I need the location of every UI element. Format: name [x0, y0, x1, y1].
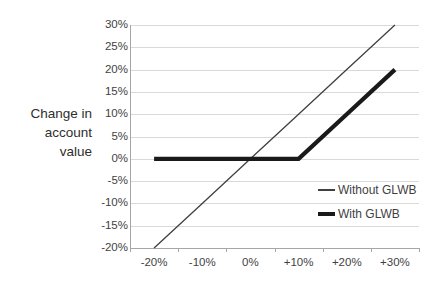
legend-item-without-glwb: Without GLWB	[318, 178, 442, 202]
x-axis-tick	[323, 248, 324, 252]
y-axis-tick-label: 15%	[86, 86, 128, 98]
x-axis-tick	[226, 248, 227, 252]
gridline	[130, 92, 419, 93]
y-axis-tick-label: -15%	[86, 220, 128, 232]
y-axis-tick-label: 0%	[86, 153, 128, 165]
x-axis-tick	[419, 248, 420, 252]
y-axis-line	[130, 25, 131, 248]
y-axis-tick-label: 25%	[86, 41, 128, 53]
x-axis-tick	[178, 248, 179, 252]
x-axis-tick-label: +30%	[369, 256, 421, 268]
chart-legend: Without GLWB With GLWB	[318, 178, 442, 226]
y-axis-tick-labels: 30%25%20%15%10%5%0%-5%-10%-15%-20%	[86, 0, 128, 294]
gridline	[130, 159, 419, 160]
gridline	[130, 114, 419, 115]
x-axis-tick-label: -20%	[128, 256, 180, 268]
x-axis-tick-label: -10%	[176, 256, 228, 268]
x-axis-tick	[371, 248, 372, 252]
legend-label-with-glwb: With GLWB	[338, 208, 400, 221]
gridline	[130, 137, 419, 138]
x-axis-tick-label: +10%	[273, 256, 325, 268]
y-axis-tick-label: 5%	[86, 131, 128, 143]
gridline	[130, 70, 419, 71]
x-axis-tick-label: +20%	[321, 256, 373, 268]
y-axis-tick-label: 20%	[86, 64, 128, 76]
gridline	[130, 25, 419, 26]
y-axis-title: Change in account value	[4, 104, 92, 161]
y-axis-tick-label: 10%	[86, 108, 128, 120]
legend-label-without-glwb: Without GLWB	[338, 184, 416, 197]
x-axis-tick	[275, 248, 276, 252]
y-axis-tick-label: -20%	[86, 242, 128, 254]
gridline	[130, 47, 419, 48]
legend-item-with-glwb: With GLWB	[318, 202, 442, 226]
x-axis-tick-label: 0%	[224, 256, 276, 268]
x-axis-tick	[130, 248, 131, 252]
y-axis-tick-label: -10%	[86, 197, 128, 209]
legend-line-icon-without-glwb	[318, 189, 335, 191]
legend-line-icon-with-glwb	[318, 212, 335, 216]
y-axis-tick-label: -5%	[86, 175, 128, 187]
y-axis-tick-label: 30%	[86, 19, 128, 31]
chart-container: Change in account value 30%25%20%15%10%5…	[0, 0, 442, 294]
